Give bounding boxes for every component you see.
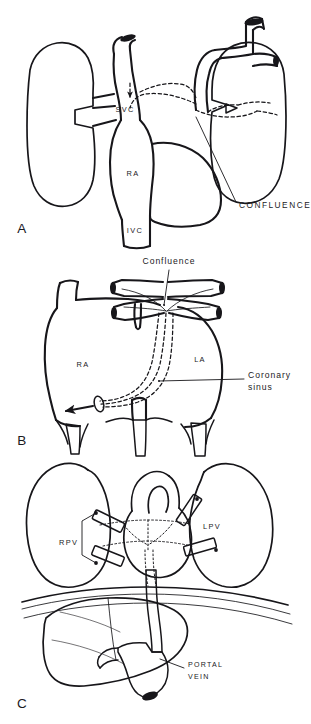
ra-label-a: RA (127, 169, 140, 178)
figure-background (0, 0, 311, 724)
confluence-label-a: CONFLUENCE (239, 200, 311, 210)
portal-vein-label-line1: PORTAL (188, 661, 223, 669)
confluence-label-b: Confluence (143, 256, 196, 266)
cut-end-lsp-vein (219, 282, 225, 294)
panel-letter-c: C (17, 696, 27, 711)
cut-vessel-end-left-hilum (273, 56, 279, 66)
ivc-label: IVC (127, 226, 143, 235)
lpv-label: LPV (203, 522, 221, 531)
panel-letter-a: A (17, 221, 26, 236)
cut-end-lip-vein (216, 307, 222, 319)
coronary-sinus-label-line1: Coronary (248, 370, 291, 380)
figure-root: A SVC RA IVC CONFLUENCE (0, 0, 311, 724)
cut-end-rsp-vein (110, 282, 116, 294)
cut-end-rip-vein (111, 307, 117, 319)
rpv-label: RPV (59, 538, 78, 547)
coronary-sinus-label-line2: sinus (248, 382, 273, 392)
ra-label-b: RA (77, 360, 90, 369)
portal-vein-label-line2: VEIN (188, 673, 210, 681)
la-label-b: LA (194, 355, 206, 364)
svc-label: SVC (115, 105, 134, 114)
panel-letter-b: B (17, 433, 26, 448)
tapvr-illustration: A SVC RA IVC CONFLUENCE (0, 0, 311, 724)
